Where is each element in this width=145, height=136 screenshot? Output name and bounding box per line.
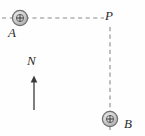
conductor-b-symbol: [102, 111, 117, 126]
north-arrow: [31, 76, 38, 111]
point-p-label: P: [105, 9, 113, 22]
conductor-a-label: A: [8, 26, 16, 39]
north-label: N: [27, 54, 36, 67]
conductor-b-label: B: [124, 117, 132, 130]
north-arrow-head: [31, 76, 38, 83]
conductor-a-symbol: [12, 10, 27, 25]
physics-diagram: A P B N: [0, 0, 145, 136]
